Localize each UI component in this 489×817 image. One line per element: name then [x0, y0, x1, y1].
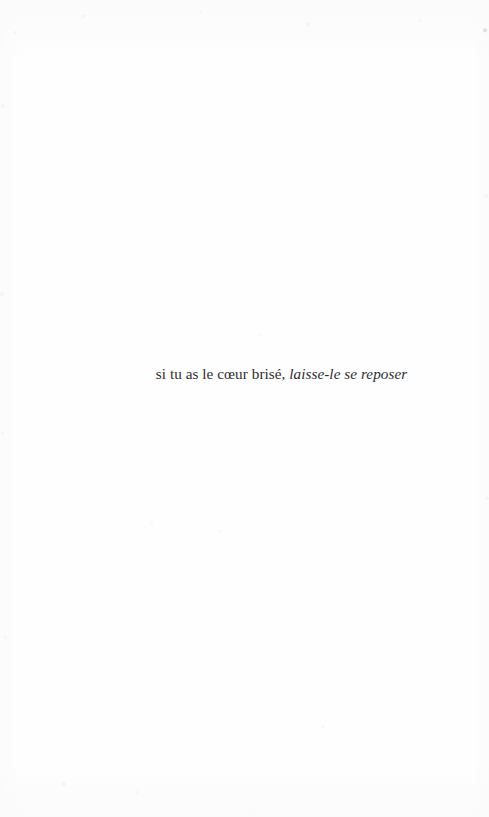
quote-clause-upright: si tu as le cœur brisé,: [156, 365, 286, 382]
quote-line: si tu as le cœur brisé, laisse-le se rep…: [156, 364, 407, 384]
quote-clause-italic: laisse-le se reposer: [289, 365, 407, 382]
scanned-page: si tu as le cœur brisé, laisse-le se rep…: [0, 0, 489, 817]
paper-grain-texture: [0, 0, 489, 817]
quote-text-block: si tu as le cœur brisé, laisse-le se rep…: [0, 364, 489, 384]
